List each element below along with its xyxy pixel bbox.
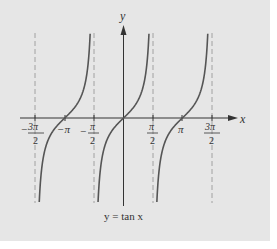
svg-text:π: π (149, 121, 155, 132)
svg-text:3π: 3π (204, 121, 216, 132)
tan-chart: y x − 3π 2 −π − π 2 π 2 π 3π 2 y = tan x (0, 0, 277, 249)
tick-label-pi: π (178, 123, 184, 135)
svg-text:2: 2 (33, 135, 38, 146)
chart-caption: y = tan x (104, 210, 143, 222)
svg-text:π: π (90, 121, 96, 132)
svg-text:3π: 3π (27, 121, 39, 132)
tick-label-neg-pi-2: − π 2 (80, 121, 99, 146)
svg-text:−: − (80, 125, 86, 137)
y-axis-label: y (119, 9, 126, 23)
svg-text:2: 2 (209, 135, 214, 146)
svg-text:2: 2 (150, 135, 155, 146)
svg-text:−: − (21, 123, 27, 135)
svg-text:2: 2 (90, 135, 95, 146)
tick-label-neg-3pi-2: − 3π 2 (21, 121, 44, 146)
x-axis-arrow-icon (228, 115, 238, 121)
tick-label-pi-2: π 2 (147, 121, 158, 146)
x-axis-label: x (239, 112, 246, 126)
tick-label-neg-pi: −π (57, 123, 70, 135)
y-axis-arrow-icon (121, 25, 127, 35)
